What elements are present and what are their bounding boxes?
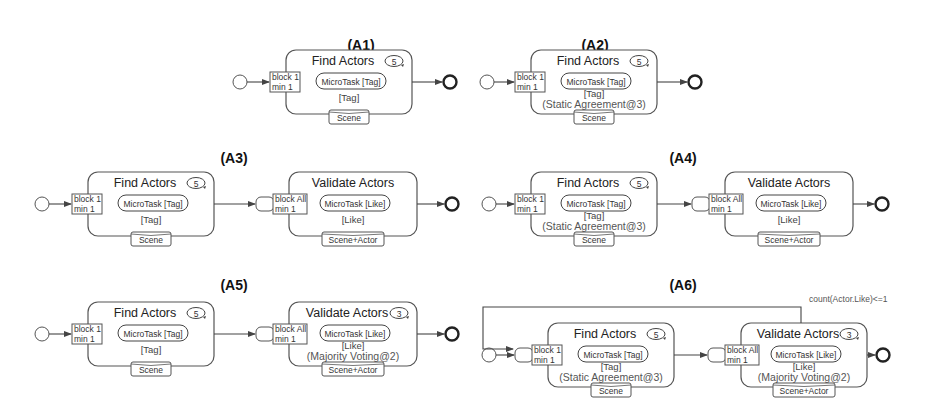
- repeat-count: 3: [397, 309, 402, 319]
- repeat-count: 5: [194, 309, 199, 319]
- diagram-title: (A3): [220, 150, 247, 166]
- task-validate-actors: block Allmin 1Validate ActorsMicroTask […: [657, 172, 853, 246]
- end-event-icon: [444, 76, 457, 89]
- block-label: block 1: [74, 324, 101, 334]
- diagram-title: (A5): [220, 277, 247, 293]
- microtask-label: MicroTask [Tag]: [583, 350, 642, 360]
- output-label: [Tag]: [141, 214, 162, 225]
- task-find-actors: block 1min 1Find Actors5MicroTask [Tag][…: [247, 50, 412, 124]
- task-name: Find Actors: [114, 176, 177, 190]
- start-event-icon: [482, 348, 496, 362]
- repeat-count: 5: [392, 57, 397, 67]
- queue-icon: [256, 327, 274, 341]
- diagram-title: (A4): [669, 150, 696, 166]
- diagram-a4: (A4)block 1min 1Find Actors5MicroTask [T…: [482, 150, 889, 246]
- task-validate-actors: block Allmin 1Validate Actors3MicroTask …: [214, 302, 417, 376]
- input-label: Scene+Actor: [329, 235, 378, 245]
- start-event-icon: [480, 75, 494, 89]
- min-label: min 1: [275, 204, 296, 214]
- microtask-label: MicroTask [Tag]: [566, 77, 625, 87]
- output-label: [Tag]: [141, 344, 162, 355]
- queue-icon: [515, 348, 533, 362]
- output-label: [Like]: [778, 214, 801, 225]
- input-label: Scene: [582, 235, 606, 245]
- start-event-icon: [482, 197, 496, 211]
- task-name: Validate Actors: [312, 176, 394, 190]
- queue-icon: [692, 197, 710, 211]
- task-name: Validate Actors: [748, 176, 830, 190]
- min-label: min 1: [534, 355, 555, 365]
- diagram-a5: (A5)block 1min 1Find Actors5MicroTask [T…: [35, 277, 459, 376]
- aggregation-label: (Majority Voting@2): [758, 371, 850, 383]
- task-find-actors: block 1min 1Find Actors5MicroTask [Tag][…: [496, 172, 657, 246]
- repeat-count: 3: [847, 330, 852, 340]
- min-label: min 1: [74, 334, 95, 344]
- task-name: Find Actors: [574, 327, 637, 341]
- block-label: block 1: [517, 194, 544, 204]
- min-label: min 1: [727, 355, 748, 365]
- task-find-actors: block 1min 1Find Actors5MicroTask [Tag][…: [49, 172, 214, 246]
- repeat-count: 5: [637, 57, 642, 67]
- task-validate-actors: block Allmin 1Validate Actors3MicroTask …: [674, 323, 867, 397]
- block-label: block All: [727, 345, 758, 355]
- repeat-count: 5: [637, 179, 642, 189]
- task-name: Find Actors: [557, 176, 620, 190]
- input-label: Scene+Actor: [329, 365, 378, 375]
- end-event-icon: [446, 328, 459, 341]
- input-label: Scene+Actor: [780, 386, 829, 396]
- end-event-icon: [876, 198, 889, 211]
- input-label: Scene: [599, 386, 623, 396]
- task-name: Validate Actors: [757, 327, 839, 341]
- diagram-a2: (A2)block 1min 1Find Actors5MicroTask [T…: [480, 37, 702, 124]
- microtask-label: MicroTask [Tag]: [566, 199, 625, 209]
- microtask-label: MicroTask [Tag]: [123, 199, 182, 209]
- start-event-icon: [35, 327, 49, 341]
- microtask-label: MicroTask [Like]: [325, 199, 386, 209]
- end-event-icon: [446, 198, 459, 211]
- microtask-label: MicroTask [Tag]: [123, 329, 182, 339]
- aggregation-label: (Static Agreement@3): [542, 98, 645, 110]
- block-label: block All: [275, 194, 306, 204]
- microtask-label: MicroTask [Like]: [325, 329, 386, 339]
- block-label: block 1: [272, 72, 299, 82]
- task-name: Validate Actors: [306, 306, 388, 320]
- task-name: Find Actors: [312, 54, 375, 68]
- repeat-count: 5: [654, 330, 659, 340]
- min-label: min 1: [275, 334, 296, 344]
- repeat-count: 5: [194, 179, 199, 189]
- start-event-icon: [233, 75, 247, 89]
- block-label: block 1: [534, 345, 561, 355]
- task-name: Find Actors: [114, 306, 177, 320]
- min-label: min 1: [272, 82, 293, 92]
- block-label: block 1: [74, 194, 101, 204]
- aggregation-label: (Majority Voting@2): [307, 350, 399, 362]
- task-find-actors: block 1min 1Find Actors5MicroTask [Tag][…: [494, 50, 657, 124]
- microtask-label: MicroTask [Like]: [776, 350, 837, 360]
- end-event-icon: [689, 76, 702, 89]
- task-find-actors: block 1min 1Find Actors5MicroTask [Tag][…: [496, 323, 674, 397]
- microtask-label: MicroTask [Tag]: [321, 77, 380, 87]
- input-label: Scene+Actor: [765, 235, 814, 245]
- task-find-actors: block 1min 1Find Actors5MicroTask [Tag][…: [49, 302, 214, 376]
- min-label: min 1: [517, 82, 538, 92]
- workflow-diagrams: (A1)block 1min 1Find Actors5MicroTask [T…: [0, 0, 942, 409]
- microtask-label: MicroTask [Like]: [761, 199, 822, 209]
- diagram-a3: (A3)block 1min 1Find Actors5MicroTask [T…: [35, 150, 459, 246]
- loop-condition-label: count(Actor.Like)<=1: [809, 294, 888, 304]
- diagram-a1: (A1)block 1min 1Find Actors5MicroTask [T…: [233, 37, 457, 124]
- end-event-icon: [877, 349, 890, 362]
- start-event-icon: [35, 197, 49, 211]
- min-label: min 1: [74, 204, 95, 214]
- min-label: min 1: [517, 204, 538, 214]
- output-label: [Like]: [342, 214, 365, 225]
- block-label: block 1: [517, 72, 544, 82]
- block-label: block All: [275, 324, 306, 334]
- input-label: Scene: [582, 113, 606, 123]
- queue-icon: [256, 197, 274, 211]
- task-validate-actors: block Allmin 1Validate ActorsMicroTask […: [214, 172, 417, 246]
- block-label: block All: [711, 194, 742, 204]
- diagram-title: (A6): [669, 277, 696, 293]
- diagram-a6: (A6)block 1min 1Find Actors5MicroTask [T…: [482, 277, 890, 397]
- input-label: Scene: [337, 113, 361, 123]
- aggregation-label: (Static Agreement@3): [542, 220, 645, 232]
